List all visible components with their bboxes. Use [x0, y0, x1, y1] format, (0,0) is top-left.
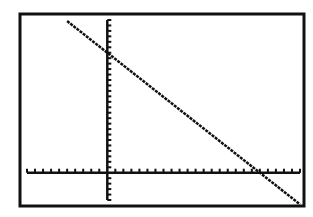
graph-screen [0, 0, 313, 217]
screen-frame [20, 14, 304, 206]
